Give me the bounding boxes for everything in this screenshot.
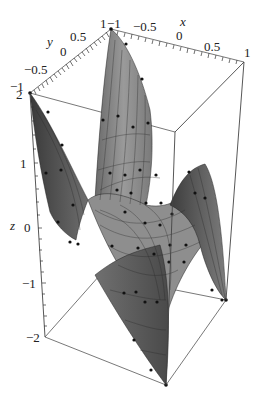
y-axis-label: y bbox=[47, 35, 53, 48]
x-tick-minus-1: −1 bbox=[107, 17, 121, 30]
z-tick-1: 1 bbox=[20, 157, 27, 170]
surface bbox=[30, 29, 226, 385]
z-tick-2: 2 bbox=[16, 88, 23, 101]
x-tick-0: 0 bbox=[176, 29, 183, 42]
y-tick-0: 0 bbox=[60, 45, 67, 58]
z-axis-label: z bbox=[10, 219, 15, 232]
y-tick-1: 1 bbox=[100, 17, 107, 30]
x-axis-label: x bbox=[180, 15, 186, 28]
y-tick-minus-0.5: −0.5 bbox=[24, 63, 48, 76]
x-tick-0.5: 0.5 bbox=[204, 40, 220, 53]
z-tick-minus-2: −2 bbox=[26, 331, 40, 344]
z-tick-minus-1: −1 bbox=[22, 277, 36, 290]
x-tick-minus-0.5: −0.5 bbox=[133, 20, 157, 33]
x-tick-1: 1 bbox=[244, 46, 251, 59]
z-tick-0: 0 bbox=[24, 221, 31, 234]
y-tick-0.5: 0.5 bbox=[70, 30, 86, 43]
